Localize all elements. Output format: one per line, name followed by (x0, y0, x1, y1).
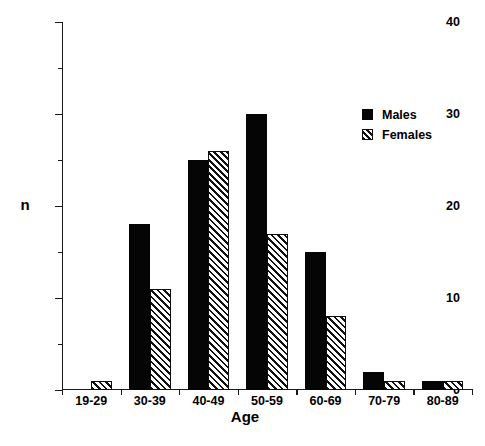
y-axis-tick (55, 206, 62, 207)
bar-males (129, 224, 150, 390)
x-axis-tick (355, 390, 356, 395)
legend-label-females: Females (382, 128, 432, 142)
x-axis-title: Age (195, 408, 295, 425)
legend-item-females: Females (362, 126, 432, 143)
y-axis-tick-label: 20 (446, 199, 460, 213)
y-axis-tick (55, 22, 62, 23)
bar-females (150, 289, 171, 390)
x-axis-tick (472, 390, 473, 395)
bar-females (208, 151, 229, 390)
bar-males (422, 381, 443, 390)
y-axis-minor-tick (58, 68, 62, 69)
y-axis-tick-label: 30 (446, 107, 460, 121)
y-axis-minor-tick (58, 344, 62, 345)
bar-females (91, 381, 112, 390)
bar-males (246, 114, 267, 390)
bar-females (443, 381, 464, 390)
y-axis-minor-tick (58, 252, 62, 253)
x-axis-tick (238, 390, 239, 395)
y-axis-title: n (14, 196, 36, 213)
x-axis-tick-label: 30-39 (134, 394, 166, 408)
x-axis-tick-label: 80-89 (427, 394, 459, 408)
x-axis-tick (413, 390, 414, 395)
chart-legend: Males Females (362, 106, 432, 146)
y-axis-tick (55, 114, 62, 115)
x-axis-tick-label: 40-49 (192, 394, 224, 408)
bar-males (188, 160, 209, 390)
bar-males (305, 252, 326, 390)
legend-label-males: Males (382, 108, 417, 122)
legend-item-males: Males (362, 106, 432, 123)
x-axis-tick (179, 390, 180, 395)
legend-swatch-females-icon (362, 129, 373, 140)
bar-females (267, 234, 288, 390)
y-axis-tick-label: 10 (446, 291, 460, 305)
x-axis-tick-label: 70-79 (368, 394, 400, 408)
x-axis-tick-label: 19-29 (75, 394, 107, 408)
y-axis-tick-label: 40 (446, 15, 460, 29)
legend-swatch-males-icon (362, 109, 373, 120)
bar-males (363, 372, 384, 390)
y-axis-minor-tick (58, 160, 62, 161)
x-axis-tick-label: 50-59 (251, 394, 283, 408)
bar-chart-figure: n Age 010203040 Males Females 19-2930-39… (0, 0, 485, 446)
x-axis-tick (296, 390, 297, 395)
bar-females (384, 381, 405, 390)
plot-area: 010203040 (62, 22, 472, 390)
bar-females (326, 316, 347, 390)
x-axis-tick-label: 60-69 (310, 394, 342, 408)
y-axis-tick (55, 298, 62, 299)
y-axis-tick (55, 390, 62, 391)
x-axis-tick (62, 390, 63, 395)
x-axis-tick (121, 390, 122, 395)
